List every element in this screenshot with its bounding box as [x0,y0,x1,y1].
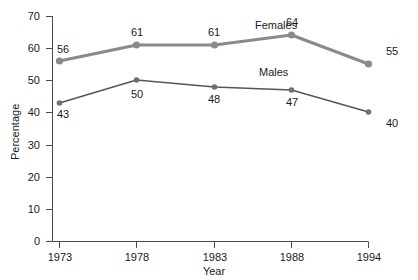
y-tick-label-50: 50 [14,75,40,86]
data-label-males-1988: 47 [279,97,305,108]
series-label-males: Males [259,67,288,78]
y-tick-label-0: 0 [14,236,40,247]
y-tick-label-20: 20 [14,172,40,183]
line-chart: 70 60 50 40 30 20 10 0 1973 1978 1983 19… [0,0,418,280]
x-tick-label-1973: 1973 [40,252,80,263]
x-tick-marks [60,242,369,249]
data-label-males-1978: 50 [124,89,150,100]
data-label-males-1973: 43 [50,109,76,120]
y-tick-label-10: 10 [14,204,40,215]
x-tick-label-1978: 1978 [117,252,157,263]
x-tick-label-1988: 1988 [272,252,312,263]
series-label-females: Females [255,20,297,31]
data-label-males-1983: 48 [201,94,227,105]
data-label-females-1973: 56 [50,44,76,55]
data-label-males-1994: 40 [379,118,405,129]
y-tick-label-70: 70 [14,11,40,22]
x-tick-label-1983: 1983 [195,252,235,263]
x-axis-title: Year [184,266,244,277]
data-label-females-1983: 61 [201,27,227,38]
x-tick-label-1994: 1994 [349,252,389,263]
plot-area [0,0,418,280]
data-label-females-1978: 61 [124,27,150,38]
y-tick-label-60: 60 [14,43,40,54]
data-label-females-1994: 55 [379,46,405,57]
y-axis-title: Percentage [10,104,21,160]
series-line-females [60,35,369,64]
